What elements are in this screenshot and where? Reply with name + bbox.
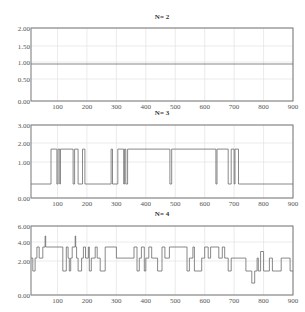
x-tick-label: 200 — [82, 297, 93, 305]
x-tick-label: 600 — [199, 200, 210, 208]
x-tick-label: 900 — [288, 103, 299, 111]
x-tick-label: 200 — [82, 200, 93, 208]
x-tick-label: 600 — [199, 297, 210, 305]
x-tick-label: 300 — [111, 200, 122, 208]
x-tick-label: 700 — [229, 297, 240, 305]
chart-title: N= 3 — [155, 109, 170, 117]
x-tick-label: 800 — [258, 200, 269, 208]
x-tick-label: 300 — [111, 297, 122, 305]
x-tick-label: 800 — [258, 103, 269, 111]
y-tick-label: 0.00 — [18, 98, 31, 106]
data-series-line — [31, 149, 293, 184]
y-tick-label: 0.00 — [18, 195, 31, 203]
y-tick-label: 0.50 — [18, 76, 31, 84]
x-tick-label: 600 — [199, 103, 210, 111]
x-tick-label: 900 — [288, 200, 299, 208]
chart-title: N= 4 — [155, 210, 170, 218]
x-tick-label: 400 — [141, 297, 152, 305]
y-tick-label: 2.00 — [18, 258, 31, 266]
x-tick-label: 200 — [82, 103, 93, 111]
y-tick-label: 1.00 — [18, 159, 31, 167]
chart-panel-n2: N= 20.000.501.001.502.001002003004005006… — [18, 13, 299, 111]
y-tick-label: 3.00 — [18, 122, 31, 130]
chart-title: N= 2 — [155, 13, 170, 21]
x-tick-label: 300 — [111, 103, 122, 111]
y-tick-label: 4.00 — [18, 239, 31, 247]
x-tick-label: 700 — [229, 103, 240, 111]
y-tick-label: 0.00 — [18, 292, 31, 300]
plot-frame — [31, 125, 293, 198]
y-tick-label: 6.00 — [18, 223, 31, 231]
data-series-line — [31, 236, 293, 283]
y-tick-label: 2.00 — [18, 25, 31, 33]
chart-panel-n3: N= 30.001.002.003.0010020030040050060070… — [18, 109, 299, 208]
x-tick-label: 500 — [170, 297, 181, 305]
x-tick-label: 100 — [52, 103, 63, 111]
x-tick-label: 100 — [52, 297, 63, 305]
y-tick-label: 1.00 — [18, 59, 31, 67]
x-tick-label: 900 — [288, 297, 299, 305]
x-tick-label: 500 — [170, 103, 181, 111]
y-tick-label: 1.50 — [18, 43, 31, 51]
x-tick-label: 400 — [141, 103, 152, 111]
chart-panel-n4: N= 40.002.004.006.0010020030040050060070… — [18, 210, 299, 305]
x-tick-label: 800 — [258, 297, 269, 305]
y-tick-label: 2.00 — [18, 140, 31, 148]
plot-frame — [31, 28, 293, 101]
figure: N= 20.000.501.001.502.001002003004005006… — [0, 0, 305, 312]
x-tick-label: 100 — [52, 200, 63, 208]
x-tick-label: 500 — [170, 200, 181, 208]
x-tick-label: 400 — [141, 200, 152, 208]
x-tick-label: 700 — [229, 200, 240, 208]
